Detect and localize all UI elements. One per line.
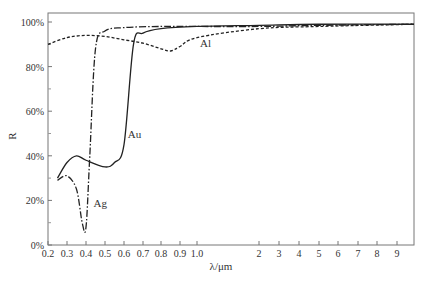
x-tick-label: 0.2 (42, 248, 55, 259)
y-axis-title: R (6, 132, 18, 140)
x-tick-label: 4 (297, 248, 302, 259)
x-tick-label: 0.3 (61, 248, 74, 259)
x-tick-label: 0.8 (155, 248, 168, 259)
series-ag-line (58, 24, 415, 232)
label-ag: Ag (94, 197, 108, 209)
x-tick-label: 8 (375, 248, 380, 259)
series-au-line (58, 24, 415, 178)
x-tick-label: 2 (257, 248, 262, 259)
x-tick-label: 5 (317, 248, 322, 259)
label-al: Al (200, 37, 211, 49)
x-tick-label: 6 (336, 248, 341, 259)
x-tick-label: 1.0 (191, 248, 204, 259)
y-tick-label: 100% (21, 17, 44, 28)
x-tick-label: 0.5 (99, 248, 112, 259)
plot-frame (48, 13, 414, 245)
y-tick-label: 80% (26, 62, 44, 73)
y-tick-label: 20% (26, 195, 44, 206)
x-tick-label: 0.9 (174, 248, 187, 259)
x-tick-label: 0.7 (137, 248, 150, 259)
y-tick-label: 60% (26, 106, 44, 117)
x-tick-label: 0.4 (80, 248, 93, 259)
y-tick-label: 40% (26, 151, 44, 162)
label-au: Au (128, 128, 142, 140)
x-tick-label: 9 (395, 248, 400, 259)
x-tick-label: 0.6 (118, 248, 131, 259)
series-labels: AlAuAg (94, 37, 212, 210)
x-tick-label: 7 (356, 248, 361, 259)
x-tick-label: 3 (277, 248, 282, 259)
y-axis: 0%20%40%60%80%100% (21, 17, 52, 251)
x-axis-title: λ/μm (210, 260, 233, 272)
series-al-line (48, 24, 414, 51)
x-axis: 0.20.30.40.50.60.70.80.91.023456789 (42, 241, 400, 259)
reflectance-chart: 0%20%40%60%80%100% 0.20.30.40.50.60.70.8… (0, 0, 427, 285)
